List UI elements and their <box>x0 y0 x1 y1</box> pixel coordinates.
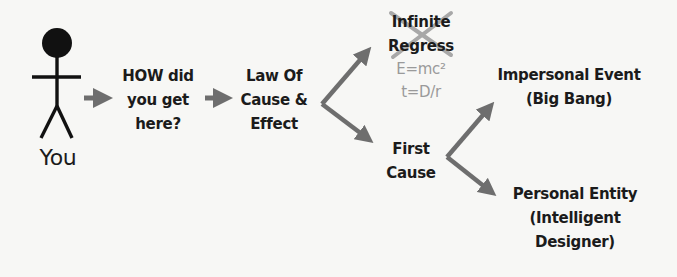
law-of-cause-effect-node: Law Of Cause & Effect <box>228 64 320 136</box>
how-line-1: HOW did <box>110 64 206 88</box>
first-line-1: First <box>378 137 444 161</box>
personal-line-3: Designer) <box>505 230 645 254</box>
how-line-3: here? <box>110 112 206 136</box>
you-text: You <box>30 145 86 171</box>
example-emc2: E=mc² <box>375 58 467 81</box>
impersonal-line-2: (Big Bang) <box>495 87 643 111</box>
stick-figure-icon <box>32 28 81 138</box>
how-did-you-get-here-node: HOW did you get here? <box>110 64 206 136</box>
first-line-2: Cause <box>378 161 444 185</box>
arrow-first-to-personal <box>447 157 490 191</box>
infinite-line-2: Regress <box>375 34 467 58</box>
how-line-2: you get <box>110 88 206 112</box>
law-line-3: Effect <box>228 112 320 136</box>
personal-line-1: Personal Entity <box>505 182 645 206</box>
arrow-first-to-impersonal <box>447 108 489 157</box>
impersonal-event-node: Impersonal Event (Big Bang) <box>495 63 643 111</box>
personal-line-2: (Intelligent <box>505 206 645 230</box>
law-line-1: Law Of <box>228 64 320 88</box>
arrow-law-to-first <box>322 104 367 138</box>
you-label: You <box>30 145 86 171</box>
example-tdr: t=D/r <box>375 81 467 104</box>
arrow-law-to-infinite <box>322 53 366 104</box>
impersonal-line-1: Impersonal Event <box>495 63 643 87</box>
law-line-2: Cause & <box>228 88 320 112</box>
flowchart-diagram: You HOW did you get here? Law Of Cause &… <box>0 0 677 277</box>
infinite-regress-node: Infinite Regress E=mc² t=D/r <box>375 10 467 104</box>
first-cause-node: First Cause <box>378 137 444 185</box>
infinite-line-1: Infinite <box>375 10 467 34</box>
personal-entity-node: Personal Entity (Intelligent Designer) <box>505 182 645 254</box>
